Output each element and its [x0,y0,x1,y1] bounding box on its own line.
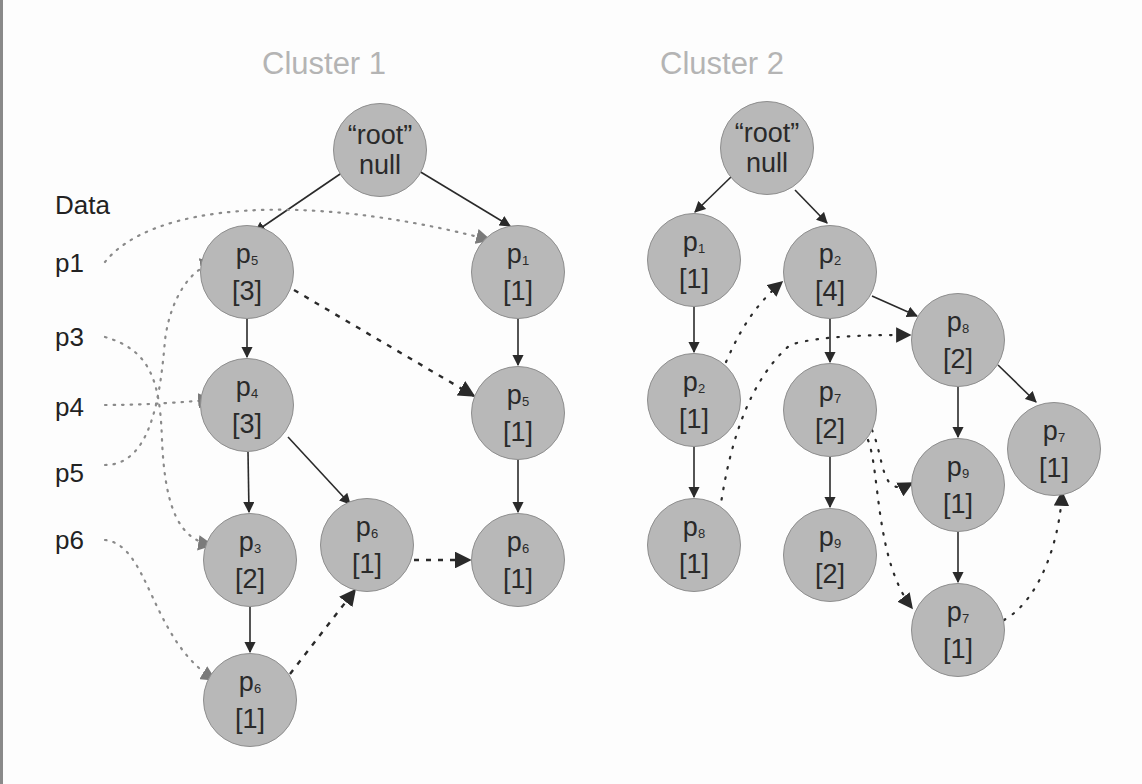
cluster1-node-links [290,290,474,674]
c1-p5-1-node: p5 [1] [471,366,565,460]
c2-p8-2-node: p8 [2] [911,293,1005,387]
node-count: [1] [503,417,533,447]
cluster-2-title: Cluster 2 [660,46,784,82]
node-label: “root” [735,118,800,148]
node-value: null [359,150,401,180]
node-label: p5 [236,239,258,276]
node-count: [1] [1039,453,1069,483]
c2-p2-1-node: p2 [1] [647,353,741,447]
node-count: [2] [235,564,265,594]
node-label: p6 [239,667,261,704]
c2-p7-1-right-node: p7 [1] [1007,402,1101,496]
node-value: null [746,148,788,178]
c1-p1-1-node: p1 [1] [471,225,565,319]
node-count: [4] [815,276,845,306]
c2-p9-1-node: p9 [1] [911,438,1005,532]
node-label: p7 [947,597,969,634]
node-count: [1] [503,276,533,306]
node-label: p7 [819,377,841,414]
data-item-p1: p1 [55,248,84,279]
node-label: p2 [683,367,705,404]
node-count: [1] [943,634,973,664]
node-label: p5 [507,380,529,417]
node-count: [1] [352,549,382,579]
node-label: p6 [356,512,378,549]
node-count: [1] [503,564,533,594]
data-header: Data [55,190,110,221]
node-count: [2] [815,414,845,444]
c1-p6-1-right-node: p6 [1] [471,513,565,607]
node-label: p3 [239,527,261,564]
data-item-p3: p3 [55,322,84,353]
c1-root-node: “root” null [333,103,427,197]
c1-p4-3-node: p4 [3] [200,358,294,452]
data-item-p4: p4 [55,392,84,423]
c2-root-node: “root” null [720,101,814,195]
c1-p6-1-bottom-node: p6 [1] [203,653,297,747]
node-label: p7 [1043,416,1065,453]
node-label: p8 [683,512,705,549]
node-count: [1] [943,489,973,519]
c2-p7-2-node: p7 [2] [783,363,877,457]
c2-p1-1-node: p1 [1] [647,213,741,307]
node-label: p2 [819,239,841,276]
node-count: [2] [815,559,845,589]
node-count: [1] [679,264,709,294]
node-label: p9 [819,522,841,559]
c1-p5-3-node: p5 [3] [200,225,294,319]
data-item-p6: p6 [55,525,84,556]
node-label: “root” [348,120,413,150]
node-count: [3] [232,409,262,439]
node-count: [1] [235,704,265,734]
node-count: [2] [943,344,973,374]
node-count: [1] [679,549,709,579]
node-label: p1 [683,227,705,264]
node-count: [3] [232,276,262,306]
node-label: p6 [507,527,529,564]
data-links [105,210,490,680]
node-label: p9 [947,452,969,489]
c2-p2-4-node: p2 [4] [783,225,877,319]
c2-p7-1-bottom-node: p7 [1] [911,583,1005,677]
cluster-1-title: Cluster 1 [262,46,386,82]
node-count: [1] [679,404,709,434]
c2-p8-1-node: p8 [1] [647,498,741,592]
c1-p3-2-node: p3 [2] [203,513,297,607]
node-label: p8 [947,307,969,344]
c1-p6-1-middle-node: p6 [1] [320,498,414,592]
data-item-p5: p5 [55,458,84,489]
node-label: p4 [236,372,258,409]
node-label: p1 [507,239,529,276]
c2-p9-2-node: p9 [2] [783,508,877,602]
